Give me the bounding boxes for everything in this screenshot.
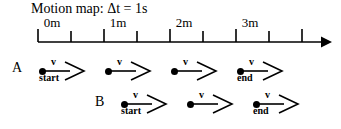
object-label-a: A: [12, 60, 22, 75]
marker-start-label: start: [39, 73, 59, 83]
marker-start-label: start: [121, 106, 141, 116]
velocity-label: v: [133, 90, 138, 100]
axis-tick-label: 1m: [110, 16, 127, 30]
velocity-label: v: [249, 57, 254, 67]
velocity-label: v: [199, 90, 204, 100]
axis-tick-label: 3m: [242, 16, 259, 30]
axis-arrowhead-icon: [321, 37, 332, 48]
object-label-b: B: [95, 94, 104, 109]
velocity-label: v: [183, 57, 188, 67]
velocity-label: v: [117, 57, 122, 67]
axis-tick-label: 2m: [176, 16, 193, 30]
velocity-label: v: [51, 57, 56, 67]
marker-end-label: end: [237, 73, 253, 83]
motion-map-diagram: Motion map: Δt = 1s 0m1m2m3mAB vstartvvv…: [0, 0, 341, 129]
axis-tick-label: 0m: [44, 16, 61, 30]
marker-end-label: end: [253, 106, 269, 116]
velocity-label: v: [265, 90, 270, 100]
